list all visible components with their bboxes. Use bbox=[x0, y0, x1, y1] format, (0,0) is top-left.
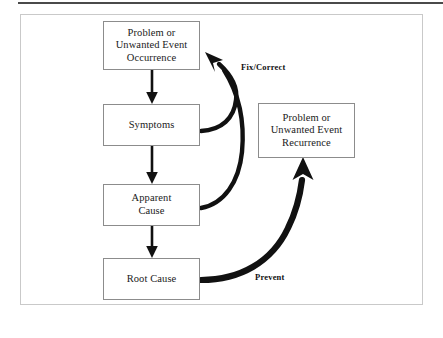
figure-frame-border bbox=[20, 14, 423, 305]
node-apparent-cause[interactable]: Apparent Cause bbox=[103, 184, 200, 226]
node-symptoms[interactable]: Symptoms bbox=[103, 104, 200, 146]
edge-label-fix-correct: Fix/Correct bbox=[241, 62, 286, 72]
node-problem-or-unwanted-event-recurrence[interactable]: Problem or Unwanted Event Recurrence bbox=[258, 103, 355, 158]
diagram-canvas: Problem or Unwanted Event Occurrence Sym… bbox=[0, 0, 443, 338]
node-label: Symptoms bbox=[127, 119, 177, 132]
top-horizontal-rule bbox=[18, 2, 443, 4]
node-label: Problem or Unwanted Event Recurrence bbox=[269, 112, 345, 150]
node-label: Apparent Cause bbox=[130, 192, 174, 217]
node-label: Problem or Unwanted Event Occurrence bbox=[114, 27, 190, 65]
edge-label-prevent: Prevent bbox=[255, 272, 285, 282]
node-problem-or-unwanted-event-occurrence[interactable]: Problem or Unwanted Event Occurrence bbox=[103, 21, 200, 70]
node-root-cause[interactable]: Root Cause bbox=[103, 258, 200, 300]
node-label: Root Cause bbox=[125, 273, 179, 286]
